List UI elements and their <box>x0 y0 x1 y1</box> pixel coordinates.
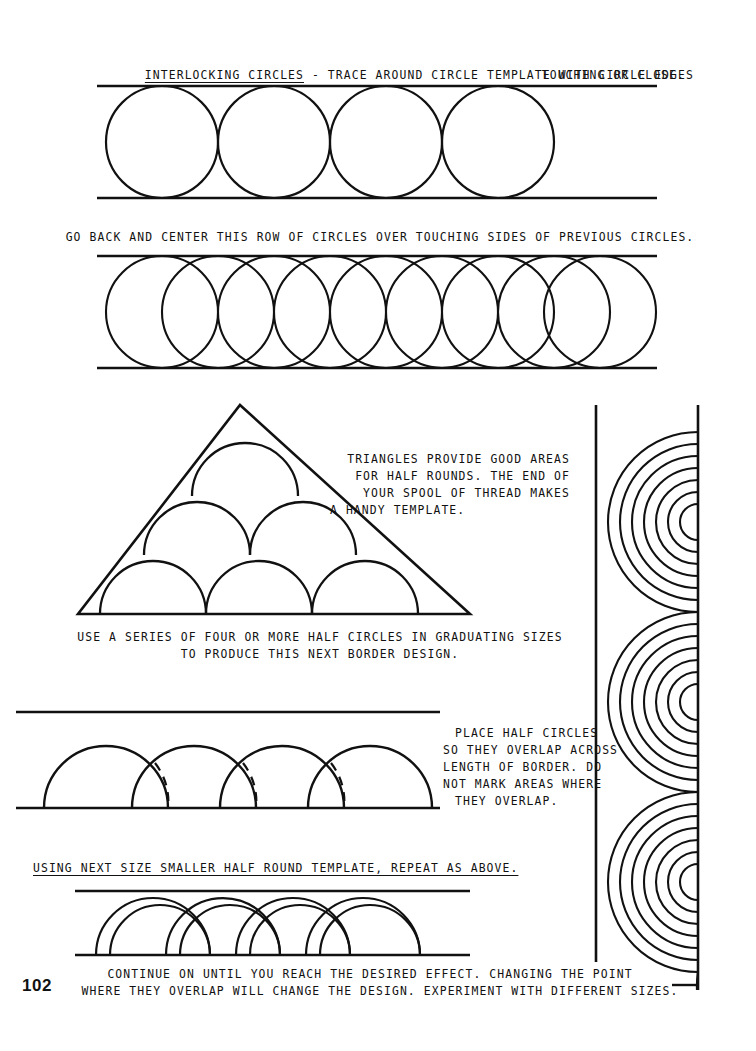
closing-caption-line-1: CONTINUE ON UNTIL YOU REACH THE DESIRED … <box>60 966 680 983</box>
arc-fan-1 <box>608 432 698 612</box>
arc-fan-2 <box>608 612 698 792</box>
arc-fan-3 <box>608 792 698 972</box>
page-number: 102 <box>22 976 52 996</box>
closing-caption-line-2: WHERE THEY OVERLAP WILL CHANGE THE DESIG… <box>60 983 700 1000</box>
figure-concentric-arc-border-strip <box>0 0 756 1051</box>
worksheet-page: INTERLOCKING CIRCLES - TRACE AROUND CIRC… <box>0 0 756 1051</box>
